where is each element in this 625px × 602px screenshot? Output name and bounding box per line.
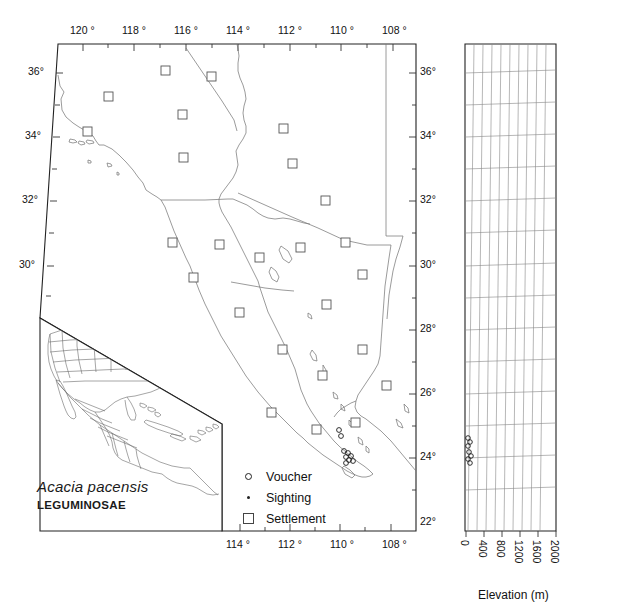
settlement-marker <box>235 308 244 317</box>
settlement-marker <box>358 345 367 354</box>
map-top-tick-4: 112 ° <box>278 24 302 36</box>
settlement-marker <box>104 92 113 101</box>
map-right-tick-5: 26° <box>420 386 436 398</box>
settlement-marker <box>207 72 216 81</box>
species-caption: Acacia pacensis LEGUMINOSAE <box>37 478 148 511</box>
map-bottom-tick-1: 112 ° <box>278 538 302 550</box>
legend-item-voucher: Voucher <box>237 466 326 487</box>
voucher-circle-icon <box>237 473 259 480</box>
map-top-tick-5: 110 ° <box>330 24 354 36</box>
settlement-marker <box>215 240 224 249</box>
settlement-marker <box>161 66 170 75</box>
map-top-tick-2: 116 ° <box>174 24 198 36</box>
settlement-marker <box>358 270 367 279</box>
map-left-tick-1: 34° <box>25 129 41 141</box>
settlement-marker <box>296 243 305 252</box>
map-top-tick-6: 108 ° <box>382 24 407 36</box>
map-right-tick-4: 28° <box>420 322 436 334</box>
elevation-axis-title: Elevation (m) <box>478 588 549 602</box>
map-legend: Voucher Sighting Settlement <box>237 466 326 529</box>
settlement-marker <box>288 159 297 168</box>
species-family-name: LEGUMINOSAE <box>37 499 148 511</box>
settlement-square-icon <box>237 513 259 524</box>
settlement-marker <box>312 425 321 434</box>
map-right-tick-3: 30° <box>420 258 436 270</box>
settlement-marker <box>382 381 391 390</box>
settlement-marker <box>321 196 330 205</box>
voucher-point <box>337 428 342 433</box>
settlement-marker <box>168 238 177 247</box>
settlement-marker <box>279 124 288 133</box>
elevation-tick-3: 1200 <box>513 540 525 563</box>
settlement-marker <box>341 238 350 247</box>
map-bottom-tick-0: 114 ° <box>226 538 250 550</box>
map-left-tick-0: 36° <box>28 65 44 77</box>
map-right-tick-2: 32° <box>420 193 436 205</box>
legend-label-settlement: Settlement <box>259 512 326 526</box>
settlement-marker <box>318 371 327 380</box>
settlement-marker <box>189 273 198 282</box>
voucher-point <box>339 434 344 439</box>
elevation-tick-5: 2000 <box>549 540 561 563</box>
sighting-dot-icon <box>237 496 259 499</box>
settlement-marker <box>255 253 264 262</box>
elevation-tick-0: 0 <box>459 540 471 546</box>
elevation-tick-2: 800 <box>495 540 507 558</box>
map-left-tick-2: 32° <box>22 193 38 205</box>
settlement-marker <box>83 127 92 136</box>
map-right-tick-6: 24° <box>420 450 436 462</box>
map-bottom-tick-2: 110 ° <box>330 538 354 550</box>
map-top-tick-0: 120 ° <box>70 24 95 36</box>
settlement-marker <box>267 408 276 417</box>
voucher-point <box>344 455 349 460</box>
settlement-marker <box>179 153 188 162</box>
settlement-marker <box>351 418 360 427</box>
map-left-tick-3: 30° <box>19 258 35 270</box>
legend-label-sighting: Sighting <box>259 491 311 505</box>
elevation-tick-1: 400 <box>477 540 489 558</box>
map-bottom-tick-3: 108 ° <box>382 538 407 550</box>
elevation-tick-4: 1600 <box>531 540 543 563</box>
map-right-tick-7: 22° <box>420 515 436 527</box>
settlement-marker <box>178 110 187 119</box>
elevation-axis-ticks <box>466 531 556 537</box>
map-right-tick-0: 36° <box>420 65 436 77</box>
species-scientific-name: Acacia pacensis <box>37 478 148 495</box>
legend-item-sighting: Sighting <box>237 487 326 508</box>
legend-label-voucher: Voucher <box>259 470 312 484</box>
voucher-point <box>344 461 349 466</box>
map-top-tick-1: 118 ° <box>122 24 146 36</box>
settlement-marker <box>322 300 331 309</box>
map-top-tick-3: 114 ° <box>226 24 250 36</box>
elevation-panel <box>465 44 556 537</box>
map-right-tick-1: 34° <box>420 129 436 141</box>
legend-item-settlement: Settlement <box>237 508 326 529</box>
settlement-marker <box>278 345 287 354</box>
